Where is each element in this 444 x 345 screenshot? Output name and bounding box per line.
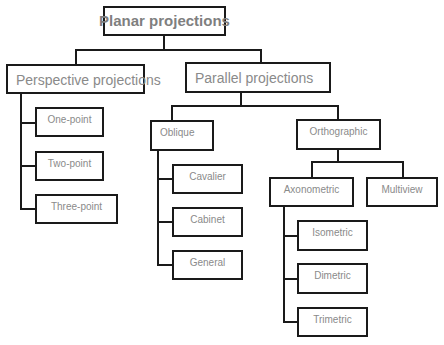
node-planar-projections: Planar projections xyxy=(103,6,226,36)
connector-line xyxy=(157,221,173,223)
connector-line xyxy=(20,208,36,210)
node-one-point: One-point xyxy=(35,107,104,137)
connector-line xyxy=(157,264,173,266)
node-oblique: Oblique xyxy=(150,120,214,151)
node-general: General xyxy=(172,250,243,280)
connector-line xyxy=(402,161,404,178)
node-isometric: Isometric xyxy=(297,220,368,251)
connector-line xyxy=(20,165,36,167)
connector-line xyxy=(283,278,298,280)
connector-line xyxy=(75,49,77,65)
connector-line xyxy=(171,105,173,121)
node-axonometric: Axonometric xyxy=(269,177,354,207)
node-orthographic: Orthographic xyxy=(296,119,381,150)
node-two-point: Two-point xyxy=(35,151,104,181)
connector-line xyxy=(75,49,262,51)
node-cavalier: Cavalier xyxy=(172,164,243,194)
connector-line xyxy=(283,321,298,323)
node-three-point: Three-point xyxy=(35,194,118,224)
connector-line xyxy=(311,161,404,163)
connector-line xyxy=(157,178,173,180)
connector-line xyxy=(20,93,22,209)
connector-line xyxy=(283,235,298,237)
connector-line xyxy=(20,122,36,124)
connector-line xyxy=(311,161,313,178)
connector-line xyxy=(171,105,339,107)
connector-line xyxy=(157,150,159,266)
node-perspective-projections: Perspective projections xyxy=(6,64,145,94)
node-cabinet: Cabinet xyxy=(172,207,243,237)
connector-line xyxy=(283,206,285,323)
node-trimetric: Trimetric xyxy=(297,307,368,337)
connector-line xyxy=(260,49,262,63)
node-dimetric: Dimetric xyxy=(297,263,368,294)
connector-line xyxy=(337,105,339,120)
node-multiview: Multiview xyxy=(366,177,438,207)
node-parallel-projections: Parallel projections xyxy=(185,62,331,93)
